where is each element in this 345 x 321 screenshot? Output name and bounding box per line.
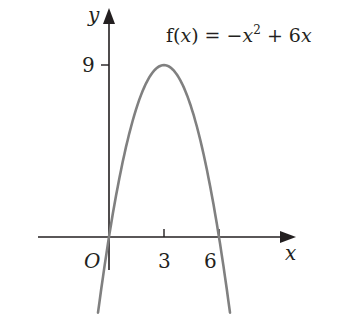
function-graph: y x O 3 6 9 f(x) = −x2 + 6x <box>0 0 345 321</box>
x-tick-label-3: 3 <box>158 249 171 273</box>
parabola-curve <box>98 65 230 313</box>
y-axis-label: y <box>87 3 100 27</box>
x-tick-label-6: 6 <box>204 249 217 273</box>
y-axis-arrow-icon <box>103 8 115 24</box>
function-title: f(x) = −x2 + 6x <box>166 23 312 46</box>
y-tick-label-9: 9 <box>82 53 95 77</box>
x-axis-label: x <box>285 241 296 265</box>
origin-label: O <box>84 249 100 273</box>
